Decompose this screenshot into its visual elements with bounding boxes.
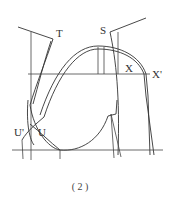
- tick-bottom-left: [22, 140, 23, 159]
- sleeve-cap-curve-inner: [44, 49, 144, 117]
- shoulder-line-s: [110, 18, 146, 32]
- label-t: T: [56, 27, 63, 39]
- sleeve-cap-curve-outer: [40, 46, 146, 115]
- diagram-drawing: T S X X' U' U ( 2 ): [0, 0, 174, 210]
- label-x-prime: X': [152, 68, 162, 80]
- armhole-curve-t-inner: [33, 41, 51, 104]
- label-u-prime: U': [14, 126, 24, 138]
- shoulder-line-t: [18, 27, 53, 39]
- pattern-diagram: T S X X' U' U ( 2 ): [0, 0, 174, 210]
- label-u: U: [38, 126, 46, 138]
- label-s: S: [100, 24, 106, 36]
- figure-caption: ( 2 ): [72, 181, 89, 193]
- label-x: X: [125, 62, 133, 74]
- side-line-x-prime-1: [146, 74, 150, 155]
